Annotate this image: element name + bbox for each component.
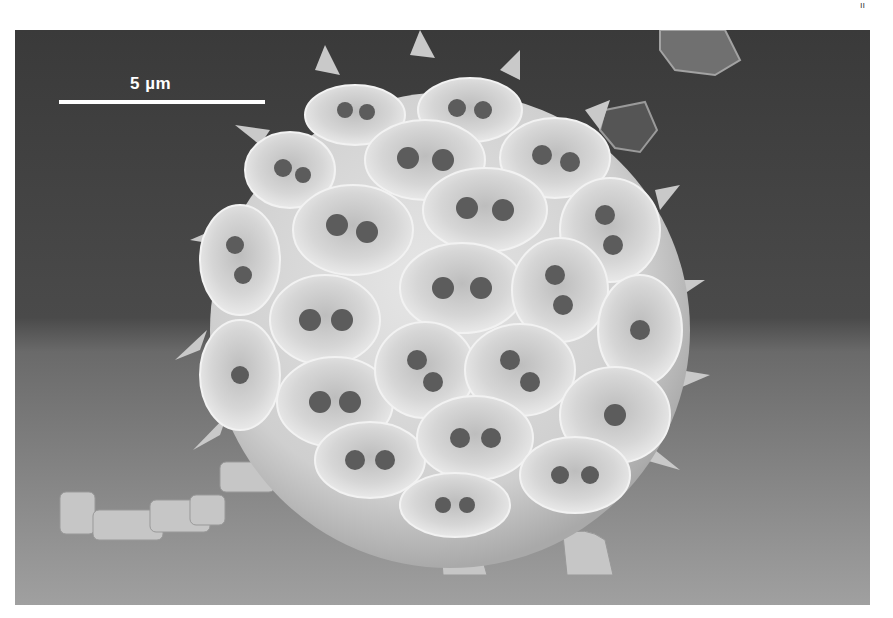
scale-bar-label: 5 µm (130, 74, 171, 94)
scale-bar (59, 100, 265, 104)
page-corner-mark: ıı (860, 0, 874, 10)
sem-micrograph: 5 µm (15, 30, 870, 605)
